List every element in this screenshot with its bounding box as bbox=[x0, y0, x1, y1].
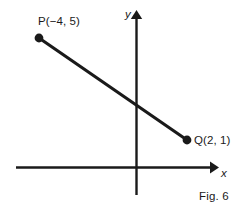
y-axis-label: y bbox=[125, 9, 131, 21]
coordinate-plane-graphic bbox=[0, 0, 244, 213]
point-label-q: Q(2, 1) bbox=[194, 135, 231, 147]
x-axis-arrowhead-icon bbox=[210, 162, 219, 174]
point-marker-p bbox=[35, 34, 44, 43]
figure-caption: Fig. 6 bbox=[199, 191, 229, 203]
segment-pq bbox=[39, 38, 187, 140]
point-marker-q bbox=[183, 136, 192, 145]
y-axis-arrowhead-icon bbox=[131, 10, 142, 19]
x-axis-label: x bbox=[221, 168, 227, 180]
figure-container: P(−4, 5) Q(2, 1) y x Fig. 6 bbox=[0, 0, 244, 213]
point-label-p: P(−4, 5) bbox=[38, 16, 80, 28]
